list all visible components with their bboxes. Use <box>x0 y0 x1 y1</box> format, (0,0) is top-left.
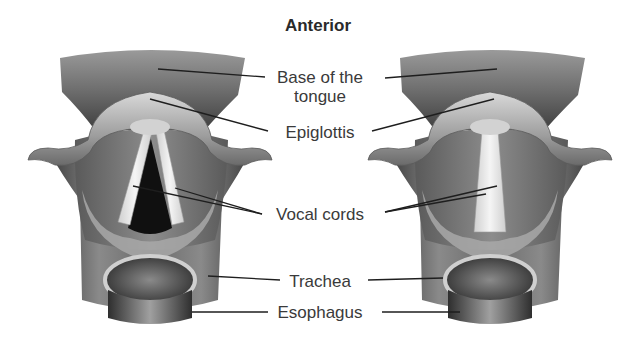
larynx-diagram <box>0 0 636 351</box>
epiglottic-tubercle <box>130 119 170 135</box>
label-base-of-tongue-line2: tongue <box>260 87 380 106</box>
label-base-of-tongue: Base of the tongue <box>260 68 380 106</box>
diagram-title: Anterior <box>0 16 636 36</box>
epiglottic-tubercle <box>470 119 510 135</box>
label-base-of-tongue-line1: Base of the <box>260 68 380 87</box>
label-epiglottis: Epiglottis <box>260 123 380 142</box>
label-esophagus: Esophagus <box>250 303 390 322</box>
label-trachea: Trachea <box>260 272 380 291</box>
label-vocal-cords: Vocal cords <box>250 205 390 224</box>
larynx-open-illustration <box>28 50 272 324</box>
